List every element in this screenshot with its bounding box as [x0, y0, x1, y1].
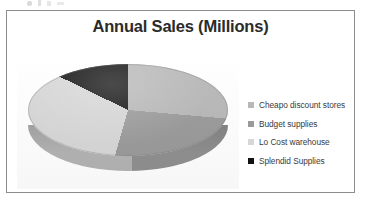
chart-title: Annual Sales (Millions): [7, 17, 354, 36]
legend-item-cheapo-discount-stores[interactable]: Cheapo discount stores: [248, 100, 353, 110]
legend-label-budget-supplies: Budget supplies: [259, 119, 317, 129]
legend-swatch-icon-lo-cost-warehouse: [248, 139, 254, 145]
scan-artifact-marks: [0, 0, 367, 9]
legend-label-splendid-supplies: Splendid Supplies: [259, 156, 325, 166]
legend-item-budget-supplies[interactable]: Budget supplies: [248, 119, 353, 129]
chart-legend: Cheapo discount stores Budget supplies L…: [248, 100, 353, 174]
legend-swatch-icon-cheapo-discount-stores: [248, 102, 254, 108]
pie-slices: [28, 64, 228, 156]
legend-label-lo-cost-warehouse: Lo Cost warehouse: [259, 137, 330, 147]
chart-frame: Annual Sales (Millions) Cheapo discount …: [6, 10, 355, 193]
legend-item-splendid-supplies[interactable]: Splendid Supplies: [248, 156, 353, 166]
scan-speck-1: [27, 1, 32, 6]
scan-speck-3: [47, 1, 51, 6]
legend-swatch-icon-splendid-supplies: [248, 158, 254, 164]
legend-item-lo-cost-warehouse[interactable]: Lo Cost warehouse: [248, 137, 353, 147]
pie-chart[interactable]: [17, 49, 239, 189]
scan-speck-2: [38, 0, 41, 6]
scan-speck-4: [57, 2, 64, 5]
legend-swatch-icon-budget-supplies: [248, 121, 254, 127]
legend-label-cheapo-discount-stores: Cheapo discount stores: [259, 100, 345, 110]
pie-top-face: [28, 64, 228, 156]
